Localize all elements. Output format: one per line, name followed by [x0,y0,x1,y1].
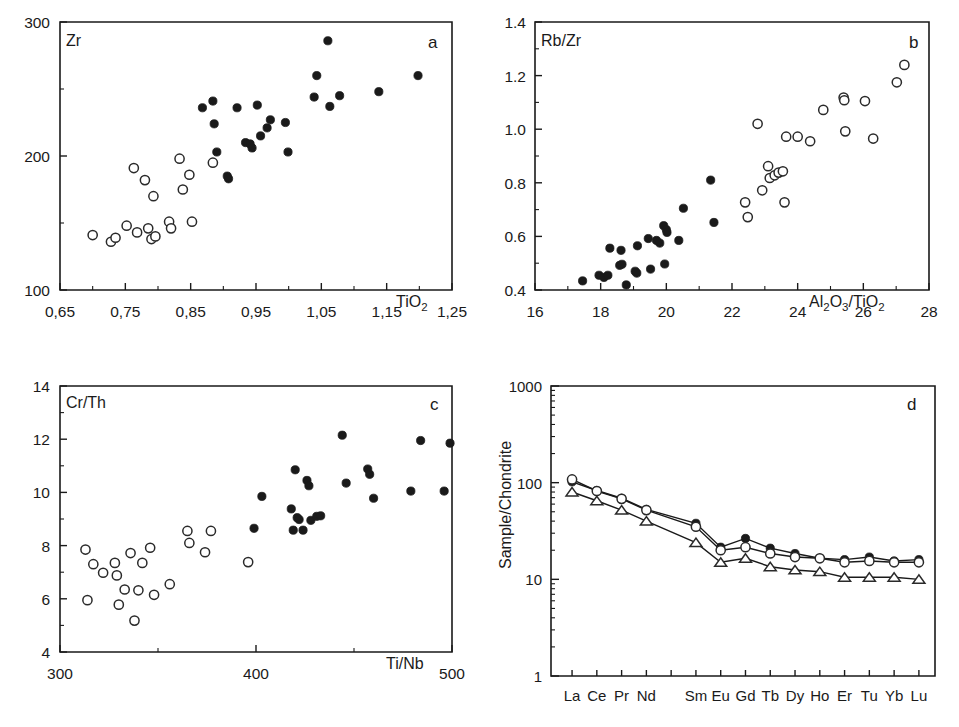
data-point [819,105,828,114]
x-tick-label: 0,95 [241,303,271,320]
y-tick-label: 0.8 [504,175,526,192]
data-point [606,244,614,252]
figure-root: 0,650,750,850,951,051,151,25100200300 Zr… [0,0,959,727]
x-tick-label: 1,25 [437,303,467,320]
panel-b-y-axis-title: Rb/Zr [541,32,582,49]
x-tick-label: 20 [658,303,676,320]
data-point [253,101,261,109]
x-tick-label: 0,85 [176,303,206,320]
panel-d-letter: d [907,395,916,414]
data-point [295,515,303,523]
x-tick-label-yb: Yb [885,687,903,704]
data-point [840,96,849,105]
data-point [758,186,767,195]
y-tick-label: 6 [41,591,50,608]
data-point [213,148,221,156]
data-point [178,185,187,194]
y-tick-label: 4 [41,644,50,661]
data-point [782,132,791,141]
data-point [741,534,749,542]
data-point [198,104,206,112]
data-point [646,265,654,273]
data-point [815,554,824,563]
data-point [313,72,321,80]
x-tick-label: 500 [439,665,465,682]
data-point [766,549,775,558]
data-point [865,556,874,565]
data-point [764,562,776,570]
x-tick-label: 24 [789,303,807,320]
data-point [165,580,174,589]
x-tick-label-ho: Ho [810,687,829,704]
x-tick-label: 28 [920,303,937,320]
data-point [656,239,664,247]
x-tick-label: 22 [723,303,740,320]
data-point [250,524,258,532]
y-tick-label: 10 [33,484,51,501]
data-point [266,116,274,124]
data-point [633,242,641,250]
x-tick-label: 300 [47,665,73,682]
panel-d-y-axis-title: Sample/Chondrite [497,441,514,569]
data-point [793,132,802,141]
data-point [126,548,135,557]
panel-d-ree-spider: 1101001000LaCePrNdSmEuGdTbDyHoErTuYbLu S… [479,364,959,727]
data-point [780,198,789,207]
x-tick-label-pr: Pr [614,687,629,704]
x-tick-label-eu: Eu [712,687,730,704]
data-point [287,505,295,513]
data-point [317,512,325,520]
data-point [110,558,119,567]
data-point [291,466,299,474]
data-point [617,494,626,503]
y-tick-label: 8 [41,538,50,555]
data-point [175,154,184,163]
data-point [840,558,849,567]
data-point [407,487,415,495]
data-point [209,97,217,105]
data-point [134,586,143,595]
data-point [146,543,155,552]
data-point [248,144,256,152]
x-tick-label-sm: Sm [685,687,708,704]
data-point [149,192,158,201]
data-point [567,475,576,484]
data-point [324,37,332,45]
panel-b-svg: 161820222426280.40.60.81.01.21.4 Rb/Zr b… [479,0,959,365]
data-point [622,281,630,289]
data-point [326,102,334,110]
y-tick-label: 200 [24,148,50,165]
data-point [741,198,750,207]
data-point [841,127,850,136]
data-point [414,72,422,80]
x-tick-label-er: Er [837,687,852,704]
data-point [206,526,215,535]
data-point [187,217,196,226]
panel-a-y-axis-title: Zr [66,32,82,49]
plot-frame [60,386,452,652]
data-point [258,492,266,500]
data-point [618,260,626,268]
x-tick-label: 18 [592,303,609,320]
x-tick-label: 1,05 [306,303,336,320]
y-tick-label: 0.6 [504,228,526,245]
panel-c-svg: 300400500468101214 Cr/Th c Ti/Nb [0,364,480,727]
y-tick-label: 10 [525,571,542,588]
data-point [149,590,158,599]
data-point [244,557,253,566]
data-point [233,104,241,112]
y-tick-label: 100 [24,282,50,299]
data-point [375,88,383,96]
panel-a-letter: a [428,33,438,52]
data-point [616,506,628,514]
data-point [185,538,194,547]
y-tick-label: 0.4 [504,282,526,299]
data-point [114,600,123,609]
data-point [604,271,612,279]
data-point [210,120,218,128]
data-point [120,585,129,594]
data-point [289,526,297,534]
data-point [89,560,98,569]
x-tick-label-dy: Dy [786,687,805,704]
data-point [579,277,587,285]
